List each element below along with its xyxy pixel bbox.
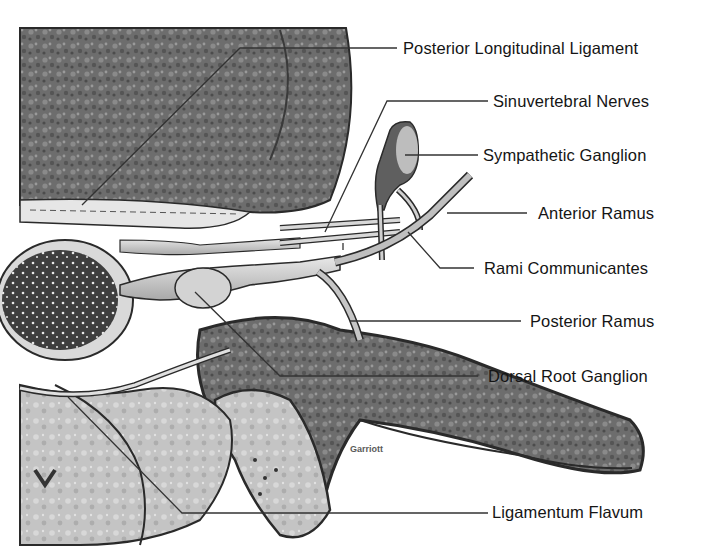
spinal-nerve <box>120 238 340 308</box>
label-sympathetic-ganglion: Sympathetic Ganglion <box>483 147 646 164</box>
lamina <box>20 385 232 545</box>
anterior-ramus-shape <box>335 175 470 262</box>
label-ligamentum-flavum: Ligamentum Flavum <box>492 504 643 521</box>
label-posterior-longitudinal-ligament: Posterior Longitudinal Ligament <box>403 40 638 57</box>
label-sinuvertebral-nerves: Sinuvertebral Nerves <box>493 93 649 110</box>
label-posterior-ramus: Posterior Ramus <box>530 313 654 330</box>
label-dorsal-root-ganglion: Dorsal Root Ganglion <box>488 368 648 385</box>
illustrator-credit: Garriott <box>350 444 383 454</box>
anatomy-illustration <box>0 0 702 560</box>
vertebral-body <box>20 28 351 213</box>
spinal-cord <box>0 240 133 360</box>
dorsal-root-ganglion-shape <box>175 268 231 308</box>
label-rami-communicantes: Rami Communicantes <box>484 260 648 277</box>
label-anterior-ramus: Anterior Ramus <box>538 205 654 222</box>
